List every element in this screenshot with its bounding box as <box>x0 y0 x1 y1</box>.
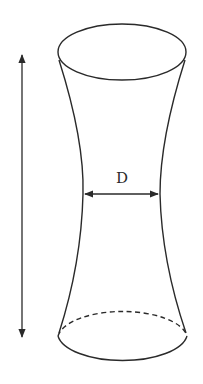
bottom-ellipse-front <box>58 336 187 361</box>
diameter-label: D <box>116 171 128 186</box>
bottom-ellipse-back-dashed <box>58 311 187 336</box>
hyperboloid-diagram: D <box>0 0 203 384</box>
left-side-curve <box>59 60 83 333</box>
right-side-curve <box>160 60 186 333</box>
diagram-svg <box>0 0 203 384</box>
top-ellipse <box>58 24 186 80</box>
